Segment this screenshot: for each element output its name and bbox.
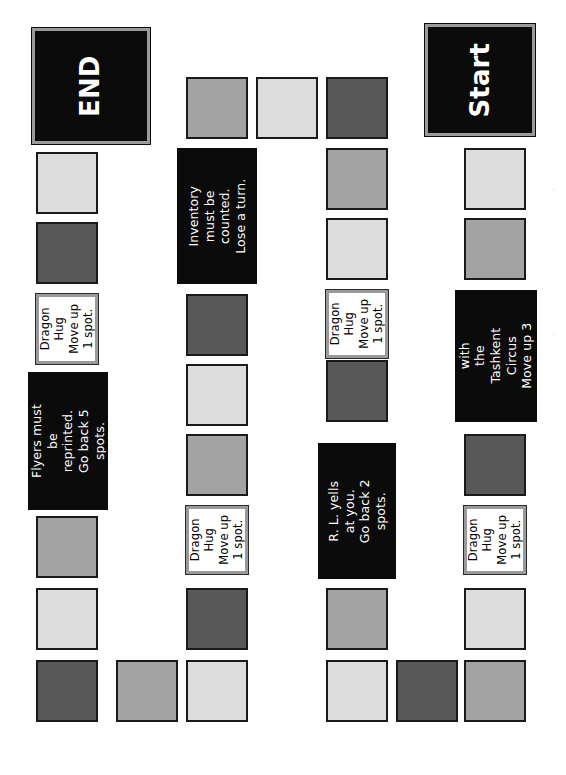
board-space-bonus-card[interactable]: Dragon Hug Move up 1 spot. bbox=[464, 506, 526, 574]
board-space-dark[interactable] bbox=[326, 77, 388, 139]
board-space-bonus-card[interactable]: Dragon Hug Move up 1 spot. bbox=[186, 506, 248, 574]
board-space-light[interactable] bbox=[326, 218, 388, 280]
board-space-penalty-card[interactable]: Inventory must be counted. Lose a turn. bbox=[177, 148, 257, 284]
board-space-bonus-card[interactable]: Dragon Hug Move up 1 spot. bbox=[326, 290, 388, 358]
board-space-medium[interactable] bbox=[36, 516, 98, 578]
board-space-dark[interactable] bbox=[186, 294, 248, 356]
board-space-dark[interactable] bbox=[36, 222, 98, 284]
board-space-medium[interactable] bbox=[186, 77, 248, 139]
board-space-penalty-card[interactable]: Flyers must be reprinted. Go back 5 spot… bbox=[28, 372, 108, 510]
board-space-light[interactable] bbox=[326, 660, 388, 722]
card-text: Make a deal with the Tashkent Circus Mov… bbox=[455, 317, 537, 395]
board-space-light[interactable] bbox=[36, 588, 98, 650]
card-text: Inventory must be counted. Lose a turn. bbox=[186, 178, 249, 254]
board-space-bonus-card[interactable]: Dragon Hug Move up 1 spot. bbox=[36, 294, 98, 364]
game-board: StartMake a deal with the Tashkent Circu… bbox=[0, 0, 566, 775]
board-space-dark[interactable] bbox=[396, 660, 458, 722]
card-text: Flyers must be reprinted. Go back 5 spot… bbox=[29, 403, 107, 479]
board-space-dark[interactable] bbox=[36, 660, 98, 722]
board-space-light[interactable] bbox=[36, 152, 98, 214]
terminal-label: Start bbox=[464, 43, 497, 117]
board-space-medium[interactable] bbox=[464, 218, 526, 280]
card-text: Dragon Hug Move up 1 spot. bbox=[466, 512, 524, 568]
card-text: Dragon Hug Move up 1 spot. bbox=[188, 512, 246, 568]
card-text: Dragon Hug Move up 1 spot. bbox=[38, 301, 96, 357]
board-space-light[interactable] bbox=[464, 588, 526, 650]
board-space-light[interactable] bbox=[186, 660, 248, 722]
board-space-light[interactable] bbox=[186, 364, 248, 426]
board-space-light[interactable] bbox=[464, 148, 526, 210]
card-text: R. L. yells at you. Go back 2 spots. bbox=[326, 474, 389, 548]
board-space-medium[interactable] bbox=[116, 660, 178, 722]
board-space-penalty-card[interactable]: R. L. yells at you. Go back 2 spots. bbox=[318, 443, 396, 579]
scan-artifact-mark: · bbox=[550, 332, 558, 335]
board-space-terminal[interactable]: END bbox=[32, 28, 150, 144]
board-space-medium[interactable] bbox=[326, 148, 388, 210]
board-space-medium[interactable] bbox=[326, 588, 388, 650]
board-space-dark[interactable] bbox=[186, 588, 248, 650]
board-space-terminal[interactable]: Start bbox=[425, 24, 535, 136]
board-space-penalty-card[interactable]: Make a deal with the Tashkent Circus Mov… bbox=[455, 290, 537, 422]
scan-artifact-mark: · bbox=[550, 187, 558, 190]
terminal-label: END bbox=[75, 55, 108, 116]
board-space-dark[interactable] bbox=[464, 434, 526, 496]
board-space-dark[interactable] bbox=[326, 360, 388, 422]
card-text: Dragon Hug Move up 1 spot. bbox=[328, 296, 386, 352]
board-space-light[interactable] bbox=[256, 77, 318, 139]
board-space-medium[interactable] bbox=[464, 660, 526, 722]
board-space-medium[interactable] bbox=[186, 434, 248, 496]
